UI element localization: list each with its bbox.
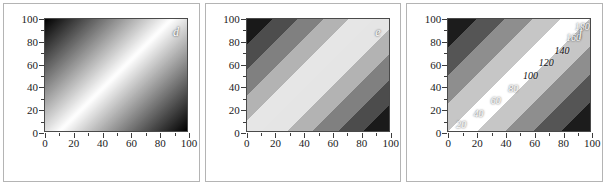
x-tick [549, 133, 550, 136]
y-tick [442, 87, 447, 88]
y-tick-label: 20 [409, 105, 441, 116]
contour-label: 40 [474, 109, 484, 119]
x-tick [261, 133, 262, 136]
x-tick [376, 133, 377, 136]
y-tick [41, 99, 44, 100]
panel-letter-e: e [375, 26, 380, 38]
panel-e: e020406080100020406080100 [205, 3, 402, 182]
y-tick [243, 99, 246, 100]
plot-area-e: e [246, 18, 390, 132]
contour-label: 100 [523, 71, 538, 81]
y-tick [39, 87, 44, 88]
y-tick [444, 122, 447, 123]
x-tick-label: 0 [244, 138, 250, 149]
x-tick-label: 80 [558, 138, 569, 149]
y-tick-label: 80 [208, 36, 240, 47]
y-tick [39, 110, 44, 111]
y-tick [39, 42, 44, 43]
y-tick-label: 100 [409, 14, 441, 25]
y-tick-label: 100 [208, 14, 240, 25]
y-tick [241, 42, 246, 43]
figure-container: d020406080100020406080100e02040608010002… [0, 0, 603, 183]
y-tick-label: 40 [409, 82, 441, 93]
x-tick-label: 60 [529, 138, 540, 149]
x-tick [146, 133, 147, 136]
x-tick-label: 80 [155, 138, 166, 149]
y-tick-label: 60 [6, 59, 38, 70]
panel-letter-f: f [579, 26, 582, 38]
contour-label: 140 [555, 46, 570, 56]
y-tick [243, 30, 246, 31]
x-tick-label: 100 [181, 138, 198, 149]
y-tick [442, 110, 447, 111]
x-tick [175, 133, 176, 136]
y-tick [241, 110, 246, 111]
contour-label: 80 [508, 84, 518, 94]
y-tick [442, 133, 447, 134]
heatmap-field-d [45, 19, 187, 131]
y-tick [41, 76, 44, 77]
panel-d: d020406080100020406080100 [3, 3, 200, 182]
x-tick [117, 133, 118, 136]
y-tick [243, 76, 246, 77]
x-tick-label: 0 [446, 138, 452, 149]
heatmap-field-e [247, 19, 389, 131]
y-tick-label: 80 [6, 36, 38, 47]
x-tick [59, 133, 60, 136]
x-tick-label: 40 [97, 138, 108, 149]
y-tick [241, 65, 246, 66]
y-tick [39, 65, 44, 66]
y-tick [444, 76, 447, 77]
panel-letter-d: d [173, 26, 179, 38]
y-tick [444, 99, 447, 100]
y-tick [39, 133, 44, 134]
y-tick [39, 19, 44, 20]
x-tick-label: 40 [500, 138, 511, 149]
y-tick [442, 65, 447, 66]
y-tick-label: 0 [208, 128, 240, 139]
y-tick-label: 60 [208, 59, 240, 70]
x-tick-label: 60 [126, 138, 137, 149]
contour-label: 60 [491, 96, 501, 106]
plot-area-f: 20406080100120140160180f [447, 18, 591, 132]
y-tick [444, 53, 447, 54]
x-tick-label: 0 [42, 138, 48, 149]
x-tick-label: 20 [68, 138, 79, 149]
contour-label: 20 [456, 120, 466, 130]
x-tick [290, 133, 291, 136]
plot-area-d: d [44, 18, 188, 132]
y-tick [243, 53, 246, 54]
y-tick-label: 0 [6, 128, 38, 139]
y-tick [41, 122, 44, 123]
y-tick-label: 20 [208, 105, 240, 116]
x-tick-label: 20 [472, 138, 483, 149]
x-tick-label: 100 [584, 138, 601, 149]
y-tick [241, 19, 246, 20]
x-tick [347, 133, 348, 136]
y-tick-label: 80 [409, 36, 441, 47]
x-tick-label: 20 [270, 138, 281, 149]
y-tick-label: 60 [409, 59, 441, 70]
x-tick-label: 100 [382, 138, 399, 149]
y-tick [241, 133, 246, 134]
y-tick-label: 40 [6, 82, 38, 93]
x-tick [319, 133, 320, 136]
y-tick-label: 0 [409, 128, 441, 139]
x-tick-label: 40 [299, 138, 310, 149]
y-tick [442, 42, 447, 43]
y-tick [41, 53, 44, 54]
y-tick [241, 87, 246, 88]
y-tick-label: 20 [6, 105, 38, 116]
x-tick [463, 133, 464, 136]
y-tick [243, 122, 246, 123]
y-tick-label: 40 [208, 82, 240, 93]
y-tick [41, 30, 44, 31]
x-tick-label: 60 [328, 138, 339, 149]
x-tick [88, 133, 89, 136]
y-tick [442, 19, 447, 20]
x-tick [520, 133, 521, 136]
x-tick [492, 133, 493, 136]
y-tick [444, 30, 447, 31]
contour-label: 120 [539, 58, 554, 68]
x-tick [578, 133, 579, 136]
